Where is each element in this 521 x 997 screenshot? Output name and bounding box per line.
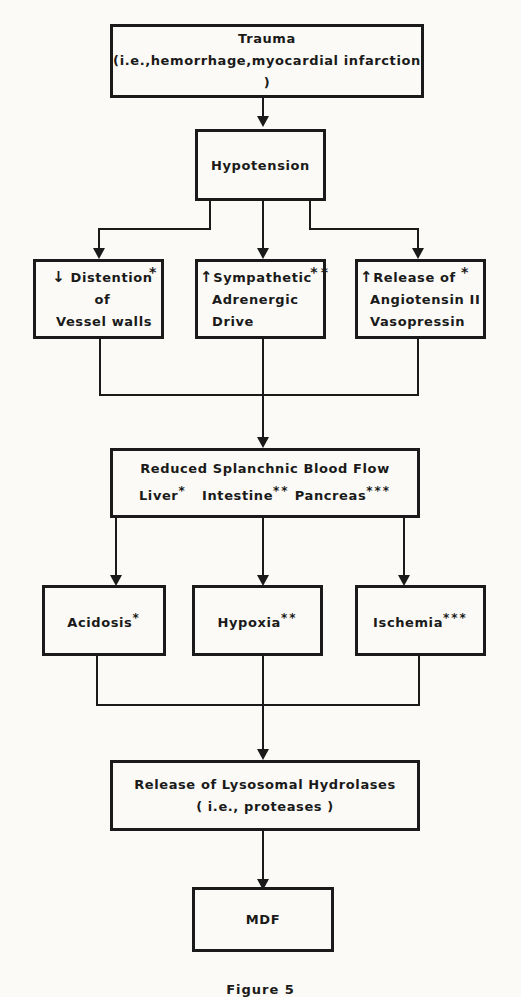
organ-pancreas: Pancreas xyxy=(295,489,366,504)
connector xyxy=(403,518,405,578)
sympathetic-box: ↑Sympathetic Adrenergic Drive ** xyxy=(195,259,326,339)
splanchnic-title: Reduced Splanchnic Blood Flow xyxy=(140,458,390,480)
hydrolases-box: Release of Lysosomal Hydrolases ( i.e., … xyxy=(110,760,420,831)
connector xyxy=(262,339,264,439)
connector xyxy=(209,201,211,230)
ischemia-label: Ischemia xyxy=(373,615,443,630)
decrease-arrow-icon: ↓ xyxy=(52,268,65,286)
connector xyxy=(417,339,419,395)
angiotensin-line2: Angiotensin II xyxy=(360,289,480,311)
hydrolases-subtitle: ( i.e., proteases ) xyxy=(196,796,334,818)
sympathetic-line2: Adrenergic xyxy=(200,289,299,311)
connector xyxy=(418,656,420,706)
trauma-title: Trauma xyxy=(238,28,296,50)
hypotension-box: Hypotension xyxy=(195,129,326,201)
connector xyxy=(262,518,264,578)
mdf-box: MDF xyxy=(192,887,334,952)
footnote-marker: ** xyxy=(281,611,298,625)
connector xyxy=(99,394,419,396)
hydrolases-title: Release of Lysosomal Hydrolases xyxy=(134,774,396,796)
footnote-marker: *** xyxy=(443,611,468,625)
figure-caption: Figure 5 xyxy=(0,982,521,997)
organ-intestine: Intestine xyxy=(202,489,273,504)
connector xyxy=(262,201,264,251)
arrow-down-icon xyxy=(257,749,269,760)
arrow-down-icon xyxy=(257,116,269,127)
arrow-down-icon xyxy=(257,248,269,259)
splanchnic-box: Reduced Splanchnic Blood Flow Liver* Int… xyxy=(110,448,420,518)
mdf-title: MDF xyxy=(246,912,280,927)
connector xyxy=(262,98,264,118)
distention-box: ↓ Distention of Vessel walls * xyxy=(33,259,164,339)
ischemia-box: Ischemia*** xyxy=(355,585,486,656)
distention-line1: Distention of xyxy=(71,270,153,307)
angiotensin-box: ↑Release of Angiotensin II Vasopressin * xyxy=(355,259,486,339)
footnote-marker: * xyxy=(132,611,140,625)
connector xyxy=(309,201,311,230)
connector xyxy=(96,656,98,706)
angiotensin-line3: Vasopressin xyxy=(360,311,465,333)
footnote-marker: * xyxy=(461,264,469,280)
trauma-box: Trauma (i.e.,hemorrhage,myocardial infar… xyxy=(110,24,424,98)
footnote-marker: * xyxy=(149,264,157,280)
sympathetic-line3: Drive xyxy=(200,311,254,333)
organ-liver: Liver xyxy=(139,489,178,504)
hypoxia-box: Hypoxia** xyxy=(192,585,323,656)
connector xyxy=(262,831,264,883)
organ-list: Liver* Intestine** Pancreas*** xyxy=(139,480,391,507)
sympathetic-line1: Sympathetic xyxy=(213,270,312,285)
hypotension-title: Hypotension xyxy=(211,158,310,173)
angiotensin-line1: Release of xyxy=(373,270,456,285)
connector xyxy=(96,704,420,706)
connector xyxy=(98,228,211,230)
connector xyxy=(99,339,101,395)
connector xyxy=(115,518,117,578)
increase-arrow-icon: ↑ xyxy=(360,268,373,286)
connector xyxy=(309,228,419,230)
footnote-marker: ** xyxy=(310,264,331,280)
arrow-down-icon xyxy=(412,248,424,259)
increase-arrow-icon: ↑ xyxy=(200,268,213,286)
arrow-down-icon xyxy=(257,437,269,448)
arrow-down-icon xyxy=(93,248,105,259)
hypoxia-label: Hypoxia xyxy=(218,615,281,630)
acidosis-box: Acidosis* xyxy=(42,585,166,656)
distention-line2: Vessel walls xyxy=(44,311,152,333)
trauma-subtitle: (i.e.,hemorrhage,myocardial infarction ) xyxy=(113,50,421,94)
acidosis-label: Acidosis xyxy=(67,615,132,630)
